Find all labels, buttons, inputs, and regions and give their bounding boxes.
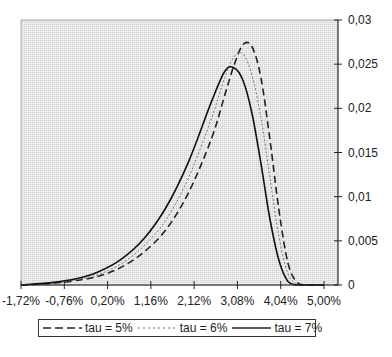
x-tick-label: 1,16% [134,294,168,308]
x-tick-label: -1,72% [2,294,40,308]
x-tick-label: 4,04% [264,294,298,308]
y-tick-label: 0 [348,278,355,292]
y-tick-label: 0,01 [348,190,372,204]
x-tick-label: -0,76% [45,294,83,308]
y-tick-label: 0,03 [348,13,372,27]
dashed-line-icon [42,325,82,331]
dotted-line-icon [137,325,177,331]
legend-item-tau-7: tau = 7% [231,321,326,335]
legend-label: tau = 5% [85,321,133,335]
y-tick-label: 0,02 [348,101,372,115]
legend: tau = 5% tau = 6% tau = 7% [38,319,316,337]
legend-item-tau-6: tau = 6% [137,321,232,335]
y-tick-label: 0,005 [348,234,378,248]
density-chart: -1,72%-0,76%0,20%1,16%2,12%3,08%4,04%5,0… [0,0,392,320]
x-tick-label: 2,12% [177,294,211,308]
x-tick-label: 5,00% [307,294,341,308]
solid-line-icon [231,325,271,331]
legend-item-tau-5: tau = 5% [42,321,137,335]
y-axis-ticks: 00,0050,010,0150,020,0250,03 [334,13,378,292]
legend-label: tau = 6% [180,321,228,335]
y-tick-label: 0,025 [348,57,378,71]
y-tick-label: 0,015 [348,146,378,160]
x-tick-label: 3,08% [220,294,254,308]
legend-label: tau = 7% [274,321,322,335]
x-tick-label: 0,20% [91,294,125,308]
plot-area [21,20,338,285]
